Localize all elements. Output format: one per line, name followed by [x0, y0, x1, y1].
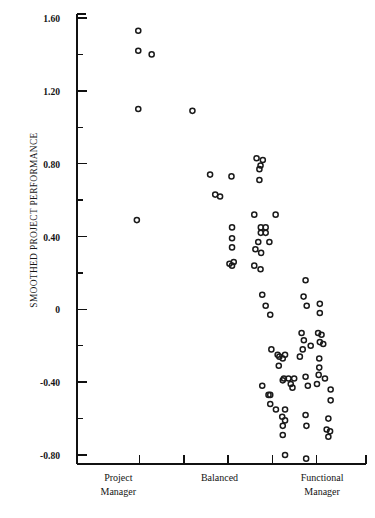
data-point: [190, 108, 195, 113]
y-tick-label: -0.80: [14, 450, 60, 461]
data-point: [229, 236, 234, 241]
x-category-label: Balanced: [201, 471, 238, 485]
data-point: [229, 174, 234, 179]
data-point: [257, 178, 262, 183]
x-category-label-line: Functional: [301, 471, 344, 485]
data-point: [317, 365, 322, 370]
data-point: [252, 263, 257, 268]
data-point: [267, 239, 272, 244]
data-point: [328, 398, 333, 403]
data-point: [260, 157, 265, 162]
data-point: [314, 381, 319, 386]
data-point: [254, 156, 259, 161]
data-point: [304, 303, 309, 308]
data-point: [259, 250, 264, 255]
data-point: [134, 218, 139, 223]
data-point: [280, 432, 285, 437]
data-point: [305, 383, 310, 388]
data-point: [316, 372, 321, 377]
x-category-label: FunctionalManager: [301, 471, 344, 498]
data-point: [136, 28, 141, 33]
data-point: [208, 172, 213, 177]
data-point: [292, 376, 297, 381]
data-point: [303, 412, 308, 417]
data-point: [269, 347, 274, 352]
x-category-label-line: Manager: [101, 485, 137, 499]
data-point: [283, 452, 288, 457]
data-point: [229, 245, 234, 250]
axes: [77, 14, 366, 464]
data-point: [326, 434, 331, 439]
data-points-layer: [134, 28, 333, 461]
x-category-label: ProjectManager: [101, 471, 137, 498]
data-point: [303, 278, 308, 283]
x-category-label-line: Manager: [301, 485, 344, 499]
data-point: [301, 294, 306, 299]
data-point: [260, 383, 265, 388]
data-point: [268, 401, 273, 406]
data-point: [300, 347, 305, 352]
data-point: [297, 354, 302, 359]
data-point: [326, 416, 331, 421]
data-point: [299, 330, 304, 335]
data-point: [280, 423, 285, 428]
data-point: [263, 303, 268, 308]
data-point: [256, 239, 261, 244]
data-point: [260, 292, 265, 297]
data-point: [149, 52, 154, 57]
data-point: [229, 225, 234, 230]
data-point: [273, 212, 278, 217]
data-point: [308, 343, 313, 348]
data-point: [317, 356, 322, 361]
data-point: [301, 338, 306, 343]
data-point: [258, 267, 263, 272]
data-point: [328, 387, 333, 392]
data-point: [317, 301, 322, 306]
data-point: [322, 376, 327, 381]
data-point: [253, 247, 258, 252]
data-point: [218, 194, 223, 199]
data-point: [304, 456, 309, 461]
data-point: [136, 48, 141, 53]
data-point: [280, 414, 285, 419]
data-point: [304, 423, 309, 428]
data-point: [273, 407, 278, 412]
y-tick-label: -0.40: [14, 377, 60, 388]
data-point: [252, 212, 257, 217]
data-point: [276, 363, 281, 368]
data-point: [317, 310, 322, 315]
x-category-label-line: Balanced: [201, 471, 238, 485]
data-point: [303, 374, 308, 379]
x-category-label-line: Project: [101, 471, 137, 485]
data-point: [283, 407, 288, 412]
y-tick-label: 1.60: [14, 13, 60, 24]
data-point: [136, 106, 141, 111]
data-point: [268, 312, 273, 317]
y-axis-title: SMOOTHED PROJECT PERFORMANCE: [29, 90, 39, 350]
